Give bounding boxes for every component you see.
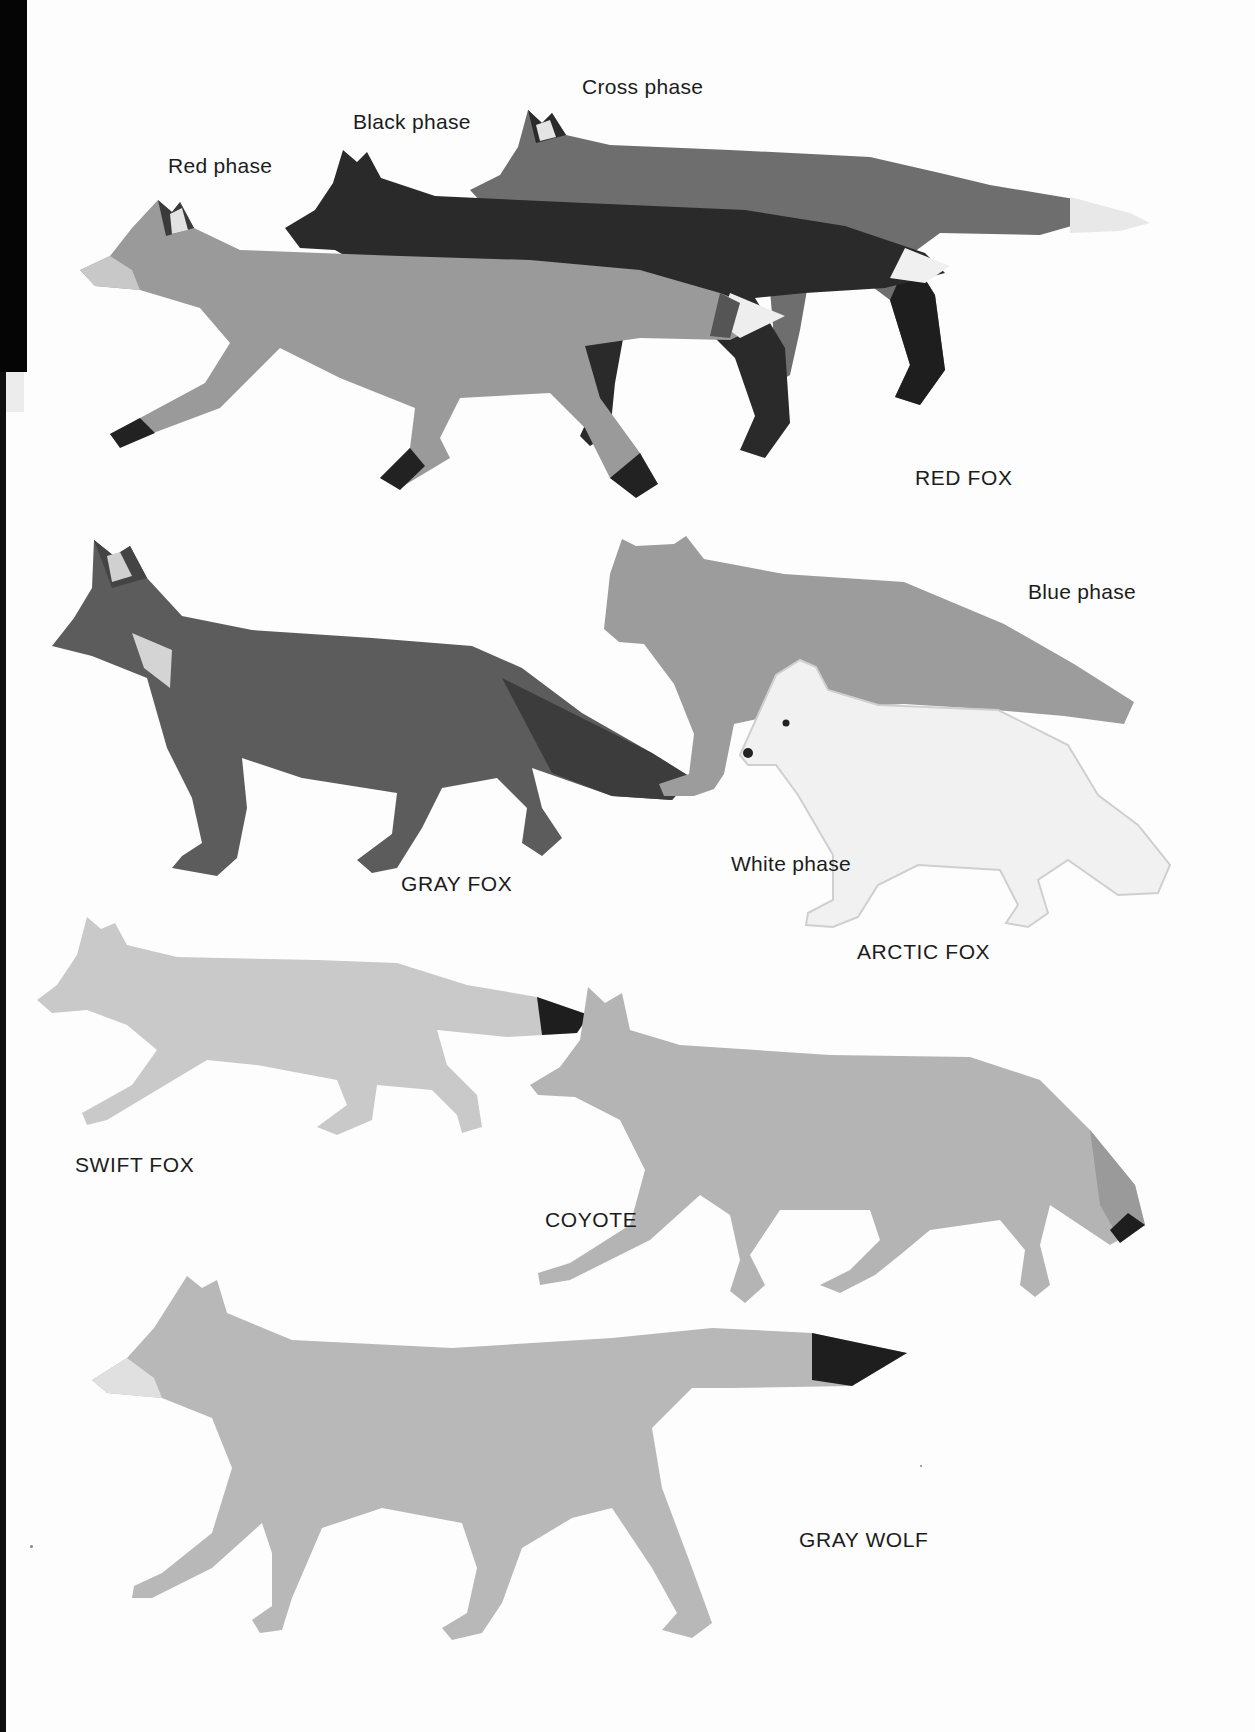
label-red-fox: RED FOX <box>915 466 1013 490</box>
illustration-plate: Red phase Black phase Cross phase RED FO… <box>0 0 1255 1732</box>
gray-wolf-illustration <box>92 1268 912 1648</box>
scan-edge-strip-lower <box>0 372 6 1732</box>
scan-speck <box>920 1465 922 1467</box>
label-white-phase: White phase <box>731 852 851 876</box>
swift-fox-illustration <box>37 915 597 1145</box>
label-coyote: COYOTE <box>545 1208 637 1232</box>
label-gray-wolf: GRAY WOLF <box>799 1528 928 1552</box>
scan-edge-strip <box>0 0 27 372</box>
label-cross-phase: Cross phase <box>582 75 703 99</box>
arctic-fox-white-phase-illustration <box>738 655 1178 935</box>
label-arctic-fox: ARCTIC FOX <box>857 940 990 964</box>
scan-speck <box>30 1545 33 1548</box>
label-black-phase: Black phase <box>353 110 471 134</box>
label-gray-fox: GRAY FOX <box>401 872 512 896</box>
red-fox-red-phase-illustration <box>80 198 800 498</box>
label-red-phase: Red phase <box>168 154 272 178</box>
scan-edge-notch <box>6 372 24 412</box>
label-swift-fox: SWIFT FOX <box>75 1153 194 1177</box>
label-blue-phase: Blue phase <box>1028 580 1136 604</box>
